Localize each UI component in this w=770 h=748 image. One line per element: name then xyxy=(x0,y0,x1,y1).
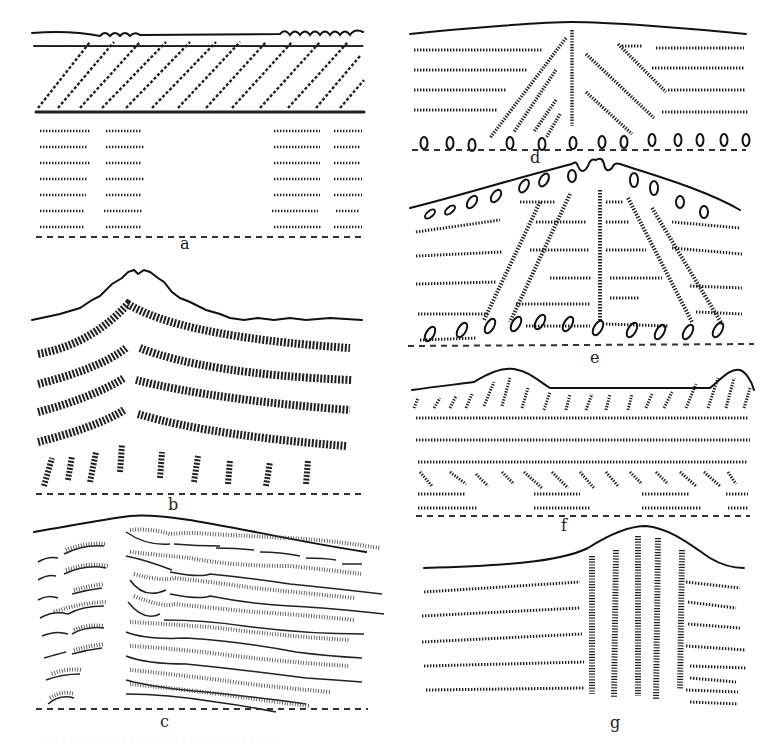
panel-e xyxy=(406,158,756,348)
surface-line xyxy=(412,369,754,390)
panel-a xyxy=(30,28,370,243)
surface-line xyxy=(410,159,740,210)
flank-tick-rows-right xyxy=(686,582,746,704)
panel-a-drawing xyxy=(30,28,370,243)
ovoid-nodules xyxy=(421,134,750,151)
right-tick-block xyxy=(272,131,362,227)
lens-hatch-left xyxy=(50,544,108,698)
panel-b-drawing xyxy=(30,264,370,500)
panel-e-label: e xyxy=(590,350,599,366)
panel-d-drawing xyxy=(406,26,756,152)
panel-g xyxy=(420,524,760,698)
lens-hatch-right xyxy=(130,530,380,707)
panel-f-drawing xyxy=(410,368,760,518)
panel-a-label: a xyxy=(180,236,190,252)
surface-line xyxy=(410,22,746,34)
radiating-fan xyxy=(490,30,666,138)
panel-c-label: c xyxy=(160,714,169,730)
panel-g-drawing xyxy=(420,524,760,698)
panel-f xyxy=(410,368,760,518)
panel-d xyxy=(406,26,756,152)
surface-line xyxy=(424,526,744,568)
panel-c xyxy=(30,512,370,712)
flank-tick-rows-left xyxy=(422,582,584,690)
horizontal-tick-rows xyxy=(414,46,748,112)
spiral-nodules xyxy=(44,444,308,486)
beaded-bands xyxy=(38,304,352,446)
slanted-ticks-lower xyxy=(420,472,736,488)
baseline xyxy=(408,344,754,346)
surface-line xyxy=(32,31,363,36)
panel-b xyxy=(30,264,370,500)
surface-nodules xyxy=(423,170,708,220)
lens-field-right xyxy=(126,532,384,712)
panel-e-drawing xyxy=(406,158,756,348)
vertical-hatched-columns xyxy=(592,536,682,700)
left-tick-block xyxy=(40,131,144,227)
panel-b-label: b xyxy=(168,497,178,513)
base-nodules xyxy=(423,313,726,343)
surface-line xyxy=(32,270,362,320)
diagonal-bands xyxy=(38,42,364,108)
panel-g-label: g xyxy=(610,715,620,731)
radiating-columns xyxy=(484,190,722,324)
panel-c-drawing xyxy=(30,512,370,712)
figure-caption: · · · · · · · · · · · · · · · · · · · · … xyxy=(40,734,760,746)
horizontal-tick-rows xyxy=(416,202,742,340)
horizontal-tick-rows xyxy=(416,418,750,508)
